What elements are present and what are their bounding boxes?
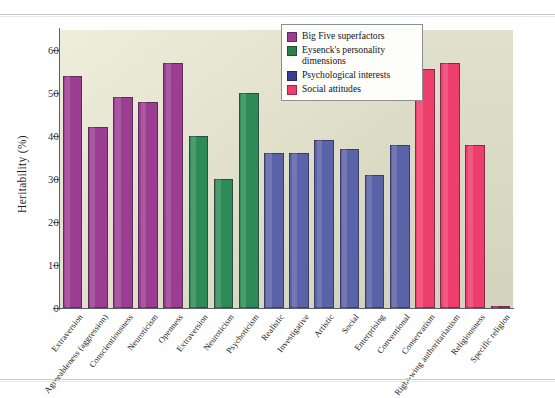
bar-face	[239, 93, 259, 308]
bar	[390, 145, 410, 308]
legend-swatch	[287, 46, 297, 56]
bar-face	[314, 140, 334, 308]
bar	[264, 153, 284, 308]
bar	[365, 175, 385, 308]
bar	[465, 145, 485, 308]
legend-swatch	[287, 85, 297, 95]
x-axis-label-text: Social	[340, 312, 361, 336]
bar-face	[63, 76, 83, 308]
y-axis-title: Heritability (%)	[16, 84, 28, 264]
legend-swatch	[287, 71, 297, 81]
x-axis-label: Artistic	[312, 312, 336, 339]
page-rule-top-soft	[0, 16, 555, 17]
bar	[340, 149, 360, 308]
legend-label: Big Five superfactors	[302, 30, 385, 41]
bar	[163, 63, 183, 308]
chart-figure: 0102030405060 Heritability (%) Extravers…	[0, 18, 555, 376]
page-rule-bottom-soft	[0, 381, 555, 382]
x-axis-label-text: Artistic	[312, 312, 336, 339]
bar	[214, 179, 234, 308]
legend-swatch	[287, 32, 297, 42]
bar-face	[289, 153, 309, 308]
bar	[491, 306, 511, 308]
chart-legend: Big Five superfactorsEysenck's personali…	[281, 24, 423, 101]
bar-face	[340, 149, 360, 308]
legend-item: Psychological interests	[287, 69, 416, 81]
legend-item: Social attitudes	[287, 83, 416, 95]
bar-face	[214, 179, 234, 308]
page-rule-top	[0, 14, 555, 15]
legend-item: Eysenck's personality dimensions	[287, 44, 416, 67]
bar-face	[189, 136, 209, 308]
bar	[113, 97, 133, 308]
legend-item: Big Five superfactors	[287, 30, 416, 42]
bar-face	[365, 175, 385, 308]
legend-label: Social attitudes	[302, 83, 361, 94]
bar-face	[264, 153, 284, 308]
bar	[88, 127, 108, 308]
x-axis-line	[59, 308, 514, 309]
bar-face	[88, 127, 108, 308]
x-axis-label: Social	[340, 312, 361, 336]
y-tick-label: 0	[13, 303, 59, 314]
bar	[189, 136, 209, 308]
bar	[289, 153, 309, 308]
bar	[415, 69, 435, 308]
bar	[314, 140, 334, 308]
bar	[138, 102, 158, 308]
bar-face	[390, 145, 410, 308]
bar-face	[440, 63, 460, 308]
bar-face	[138, 102, 158, 308]
legend-label: Eysenck's personality dimensions	[302, 44, 416, 67]
y-tick-label: 60	[13, 45, 59, 56]
page-rule-bottom	[0, 379, 555, 380]
legend-label: Psychological interests	[302, 69, 390, 80]
bar-face	[163, 63, 183, 308]
bar	[239, 93, 259, 308]
bar-face	[465, 145, 485, 308]
bar	[440, 63, 460, 308]
bar	[63, 76, 83, 308]
bar-face	[415, 69, 435, 308]
y-axis-line	[59, 28, 60, 310]
bar-face	[113, 97, 133, 308]
bar-face	[491, 306, 511, 308]
